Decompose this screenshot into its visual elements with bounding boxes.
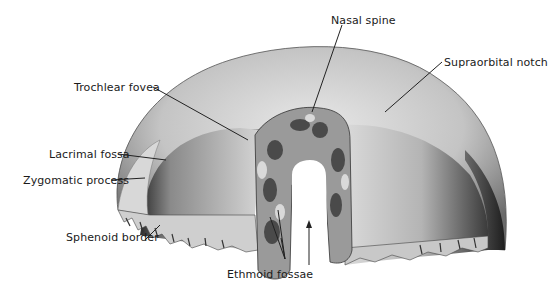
label-lacrimal-fossa: Lacrimal fossa — [49, 148, 130, 161]
label-trochlear-fovea: Trochlear fovea — [74, 81, 160, 94]
label-nasal-spine: Nasal spine — [331, 14, 396, 27]
label-sphenoid-border: Sphenoid border — [66, 231, 159, 244]
anatomy-figure: Nasal spine Supraorbital notch Trochlear… — [0, 0, 553, 295]
label-ethmoid-fossae: Ethmoid fossae — [227, 268, 313, 281]
label-supraorbital-notch: Supraorbital notch — [444, 56, 548, 69]
label-zygomatic-process: Zygomatic process — [23, 174, 129, 187]
ethmoid-notch — [292, 160, 328, 270]
